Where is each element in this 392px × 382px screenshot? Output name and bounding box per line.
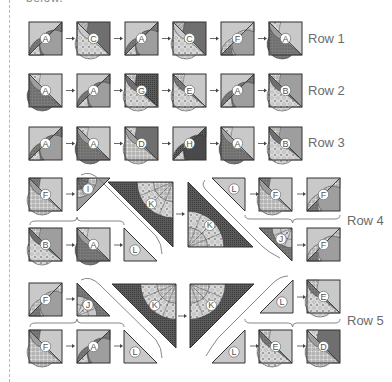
row2-block-3: G [123, 74, 158, 111]
arrow-right-icon [162, 142, 171, 146]
row1-block-2: C [75, 22, 110, 59]
row4-block-f-top: F [27, 178, 62, 215]
arrow-right-icon [210, 37, 219, 41]
svg-text:L: L [132, 245, 137, 255]
svg-text:F: F [321, 190, 327, 200]
svg-text:L: L [132, 347, 137, 357]
block-diagram-canvas: ACACFAAAGEABAADHABFIBALKKLFFJFFJFALKKLEL… [0, 0, 392, 382]
arrow-right-icon [297, 295, 306, 299]
svg-text:A: A [90, 240, 96, 250]
arrow-right-icon [210, 89, 219, 93]
svg-text:B: B [282, 86, 288, 96]
svg-text:A: A [234, 86, 240, 96]
row1-block-4: C [171, 22, 206, 59]
arrow-right-icon [114, 243, 123, 247]
arrow-right-icon [162, 37, 171, 41]
svg-text:K: K [148, 199, 154, 209]
svg-text:I: I [87, 184, 90, 194]
svg-text:A: A [42, 34, 48, 44]
svg-text:K: K [207, 220, 213, 230]
row3-block-2: A [75, 127, 110, 164]
svg-text:F: F [321, 240, 327, 250]
arrow-right-icon [297, 344, 306, 348]
arrow-right-icon [297, 192, 306, 196]
arrow-right-icon [66, 243, 75, 247]
svg-text:B: B [42, 240, 48, 250]
arrow-right-icon [114, 142, 123, 146]
svg-text:J: J [86, 300, 91, 310]
arrow-right-icon [66, 344, 75, 348]
row5-triangle-j: J [57, 283, 110, 336]
row4-triangle-l-left: L [124, 228, 157, 261]
row1-block-1: A [29, 22, 62, 55]
row3-block-3: D [123, 127, 158, 164]
svg-text:A: A [42, 139, 48, 149]
row2-block-6: B [267, 74, 302, 111]
brace [30, 217, 124, 225]
row1-block-5: F [221, 22, 254, 55]
arrow-right-icon [66, 297, 75, 301]
arrow-right-icon [66, 192, 75, 196]
row2-block-4: E [171, 74, 206, 111]
svg-text:C: C [186, 34, 193, 44]
arrow-right-icon [258, 89, 267, 93]
arrow-right-icon [114, 37, 123, 41]
svg-text:F: F [43, 190, 49, 200]
arrow-right-icon [162, 89, 171, 93]
svg-text:H: H [186, 139, 193, 149]
svg-text:F: F [235, 34, 241, 44]
svg-text:B: B [282, 139, 288, 149]
row5-block-f: F [27, 330, 62, 367]
row3-block-6: B [267, 127, 302, 164]
row5-triangle-l-left: L [124, 330, 157, 363]
row2-block-1: A [27, 74, 62, 111]
svg-text:G: G [138, 86, 145, 96]
svg-text:E: E [272, 342, 278, 352]
svg-text:F: F [43, 295, 49, 305]
row3-block-5: A [219, 127, 254, 164]
arrow-right-icon [210, 142, 219, 146]
svg-text:E: E [186, 86, 192, 96]
svg-text:A: A [90, 86, 96, 96]
row3-block-4: H [173, 127, 206, 160]
svg-text:A: A [234, 139, 240, 149]
svg-text:D: D [138, 139, 145, 149]
brace [245, 215, 340, 223]
arrow-right-icon [258, 142, 267, 146]
row3-block-1: A [29, 127, 62, 160]
row5-block-e-top: E [305, 280, 340, 317]
svg-text:L: L [231, 184, 236, 194]
arrow-right-icon [114, 89, 123, 93]
svg-text:D: D [320, 342, 327, 352]
svg-text:K: K [208, 300, 214, 310]
row1-block-3: A [125, 22, 158, 55]
brace [30, 319, 124, 327]
arrow-right-icon [178, 314, 187, 318]
svg-text:A: A [90, 342, 96, 352]
row4-triangle-l-right: L [212, 178, 245, 211]
row4-block-b: B [27, 228, 62, 265]
row1-block-6: A [267, 22, 302, 59]
svg-text:A: A [90, 139, 96, 149]
arrow-right-icon [66, 37, 75, 41]
row4-block-f1: F [257, 178, 292, 215]
row5-block-e: E [257, 330, 292, 367]
svg-text:A: A [282, 34, 288, 44]
svg-text:F: F [273, 190, 279, 200]
svg-text:A: A [138, 34, 144, 44]
quilt-assembly-diagram: below. Row 1 Row 2 Row 3 Row 4 Row 5 [0, 0, 392, 382]
arrow-right-icon [66, 89, 75, 93]
arrow-right-icon [297, 243, 306, 247]
row4-block-a: A [75, 228, 110, 265]
arrow-right-icon [176, 212, 185, 216]
row4-triangle-j: J [259, 208, 312, 261]
svg-text:C: C [90, 34, 97, 44]
row4-triangle-i: I [57, 158, 110, 211]
arrow-right-icon [66, 142, 75, 146]
arrow-right-icon [114, 344, 123, 348]
row5-triangle-l-top: L [260, 280, 293, 313]
row2-block-2: A [77, 74, 110, 107]
row4-block-f2: F [307, 178, 340, 211]
brace [245, 319, 340, 327]
svg-text:L: L [231, 347, 236, 357]
